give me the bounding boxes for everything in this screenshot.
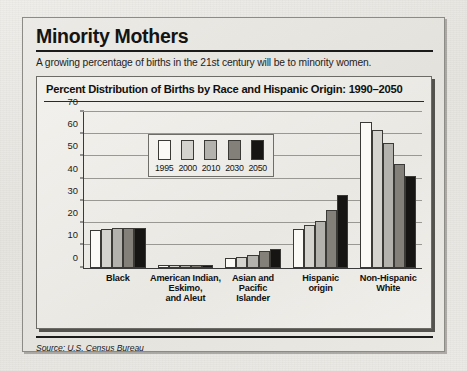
page-title: Minority Mothers [36,27,433,47]
bar[interactable] [236,257,247,268]
x-axis-category-label: Non-Hispanic White [340,273,436,294]
legend-item[interactable]: 2000 [178,140,196,173]
legend-label: 2010 [202,163,220,173]
legend-swatch [181,140,194,160]
source-note: Source: U.S. Census Bureau [36,343,433,353]
source-divider [36,336,433,338]
y-tick-label-50: 50 [68,140,78,151]
y-tick-label-30: 30 [68,184,78,195]
legend-item[interactable]: 1995 [155,140,173,173]
bar[interactable] [158,265,169,267]
bar[interactable] [383,143,394,268]
headline-divider [36,50,433,52]
bar[interactable] [112,228,123,267]
chart-title: Percent Distribution of Births by Race a… [37,77,431,95]
y-tick-label-10: 10 [68,229,78,240]
bar[interactable] [191,265,202,267]
bar[interactable] [180,265,191,267]
bar[interactable] [225,258,236,268]
legend-swatch [228,140,241,160]
bar[interactable] [101,229,112,267]
legend-item[interactable]: 2030 [225,140,243,173]
chart-card: Percent Distribution of Births by Race a… [36,76,432,329]
bar[interactable] [123,228,134,267]
bar[interactable] [270,249,281,268]
chart-legend: 19952000201020302050 [148,134,274,177]
legend-swatch [204,140,217,160]
y-tick-label-60: 60 [68,117,78,128]
legend-label: 2030 [225,163,243,173]
bar-group: Non-Hispanic White [354,112,422,268]
legend-label: 1995 [155,163,173,173]
legend-item[interactable]: 2010 [202,140,220,173]
legend-swatch [158,140,171,160]
legend-label: 2050 [249,163,267,173]
bar[interactable] [315,221,326,267]
bar[interactable] [405,176,416,267]
bar[interactable] [90,230,101,267]
bar[interactable] [304,225,315,267]
y-tick-label-40: 40 [68,162,78,173]
bar[interactable] [394,164,405,268]
bar[interactable] [259,251,270,267]
bar[interactable] [360,122,371,267]
bar[interactable] [202,265,213,268]
legend-item[interactable]: 2050 [249,140,267,173]
y-tick-label-70: 70 [68,95,78,106]
bar[interactable] [326,210,337,268]
bar[interactable] [293,229,304,267]
y-tick-label-0: 0 [73,251,78,262]
y-tick-label-20: 20 [68,207,78,218]
article-panel: Minority Mothers A growing percentage of… [22,17,445,352]
bar-group: Black [84,112,152,268]
plot-axes: 010203040506070 BlackAmerican Indian, Es… [83,112,422,269]
plot-area: 010203040506070 BlackAmerican Indian, Es… [37,102,431,309]
bar[interactable] [372,130,383,268]
bar[interactable] [337,195,348,268]
legend-swatch [251,140,264,160]
bar[interactable] [247,255,258,267]
bar[interactable] [134,228,145,267]
bar-group: Hispanic origin [287,112,355,268]
article-deck: A growing percentage of births in the 21… [36,57,433,70]
bar[interactable] [169,265,180,267]
legend-label: 2000 [178,163,196,173]
